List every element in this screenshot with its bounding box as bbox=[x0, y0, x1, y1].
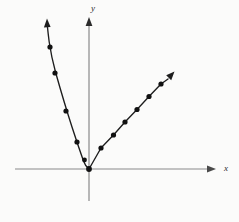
x-axis-arrowhead bbox=[207, 165, 216, 172]
data-point bbox=[82, 158, 87, 163]
left-branch-arrowhead bbox=[44, 19, 51, 28]
data-point bbox=[122, 119, 127, 124]
y-axis-arrowhead bbox=[86, 17, 93, 26]
data-point bbox=[158, 81, 163, 86]
origin-point bbox=[86, 166, 92, 172]
left-branch-curve bbox=[47, 26, 89, 170]
data-point bbox=[63, 108, 68, 113]
data-point bbox=[111, 132, 116, 137]
graph-figure: x y bbox=[0, 0, 239, 222]
right-branch-line bbox=[89, 79, 168, 169]
x-axis-label: x bbox=[224, 164, 228, 173]
data-point bbox=[134, 107, 139, 112]
axes-group bbox=[15, 17, 216, 201]
data-point bbox=[146, 94, 151, 99]
data-point bbox=[74, 139, 79, 144]
left-branch-group bbox=[44, 19, 89, 170]
plot-canvas bbox=[0, 0, 239, 222]
y-axis-label: y bbox=[91, 4, 95, 13]
data-point bbox=[98, 145, 103, 150]
data-point bbox=[47, 44, 52, 49]
data-point bbox=[52, 70, 57, 75]
right-branch-group bbox=[89, 72, 175, 170]
